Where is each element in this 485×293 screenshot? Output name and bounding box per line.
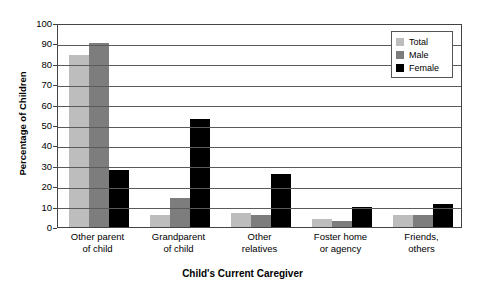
y-tick-label: 60 bbox=[18, 101, 52, 111]
y-tick-label: 20 bbox=[18, 182, 52, 192]
legend-swatch-icon bbox=[396, 51, 404, 59]
y-tick-label: 10 bbox=[18, 203, 52, 213]
x-axis-title: Child's Current Caregiver bbox=[0, 268, 485, 279]
bar-female bbox=[271, 174, 291, 227]
legend-label: Total bbox=[409, 37, 428, 47]
x-tick-label: Foster home or agency bbox=[300, 231, 381, 254]
legend-item: Male bbox=[396, 48, 448, 61]
gridline bbox=[58, 188, 461, 189]
bar-female bbox=[109, 170, 129, 227]
legend-swatch-icon bbox=[396, 64, 404, 72]
bar-chart: Percentage of Children 01020304050607080… bbox=[0, 0, 485, 293]
y-tick-label: 80 bbox=[18, 60, 52, 70]
y-tick-label: 90 bbox=[18, 39, 52, 49]
legend-swatch-icon bbox=[396, 38, 404, 46]
y-tick-label: 100 bbox=[18, 19, 52, 29]
legend-item: Total bbox=[396, 35, 448, 48]
gridline bbox=[58, 147, 461, 148]
y-tick-mark bbox=[53, 228, 57, 229]
bar-total bbox=[393, 215, 413, 227]
y-tick-label: 70 bbox=[18, 80, 52, 90]
y-tick-label: 0 bbox=[18, 223, 52, 233]
bar-male bbox=[170, 198, 190, 227]
x-tick-label: Other relatives bbox=[219, 231, 300, 254]
legend: TotalMaleFemale bbox=[391, 31, 453, 78]
gridline bbox=[58, 86, 461, 87]
bar-total bbox=[312, 219, 332, 227]
x-tick-label: Other parent of child bbox=[57, 231, 138, 254]
bar-male bbox=[413, 215, 433, 227]
legend-item: Female bbox=[396, 61, 448, 74]
gridline bbox=[58, 208, 461, 209]
gridline bbox=[58, 106, 461, 107]
bar-female bbox=[352, 207, 372, 227]
gridline bbox=[58, 127, 461, 128]
y-tick-label: 30 bbox=[18, 162, 52, 172]
bar-male bbox=[89, 43, 109, 227]
gridline bbox=[58, 167, 461, 168]
bar-total bbox=[69, 55, 89, 227]
x-axis-tick-labels: Other parent of childGrandparent of chil… bbox=[57, 231, 462, 265]
y-tick-label: 50 bbox=[18, 121, 52, 131]
bar-total bbox=[150, 215, 170, 227]
x-tick-label: Grandparent of child bbox=[138, 231, 219, 254]
x-tick-label: Friends, others bbox=[381, 231, 462, 254]
bar-total bbox=[231, 213, 251, 227]
bar-female bbox=[190, 119, 210, 227]
bar-female bbox=[433, 204, 453, 227]
bar-male bbox=[251, 215, 271, 227]
legend-label: Male bbox=[409, 50, 429, 60]
y-tick-label: 40 bbox=[18, 141, 52, 151]
bar-male bbox=[332, 221, 352, 227]
legend-label: Female bbox=[409, 63, 439, 73]
